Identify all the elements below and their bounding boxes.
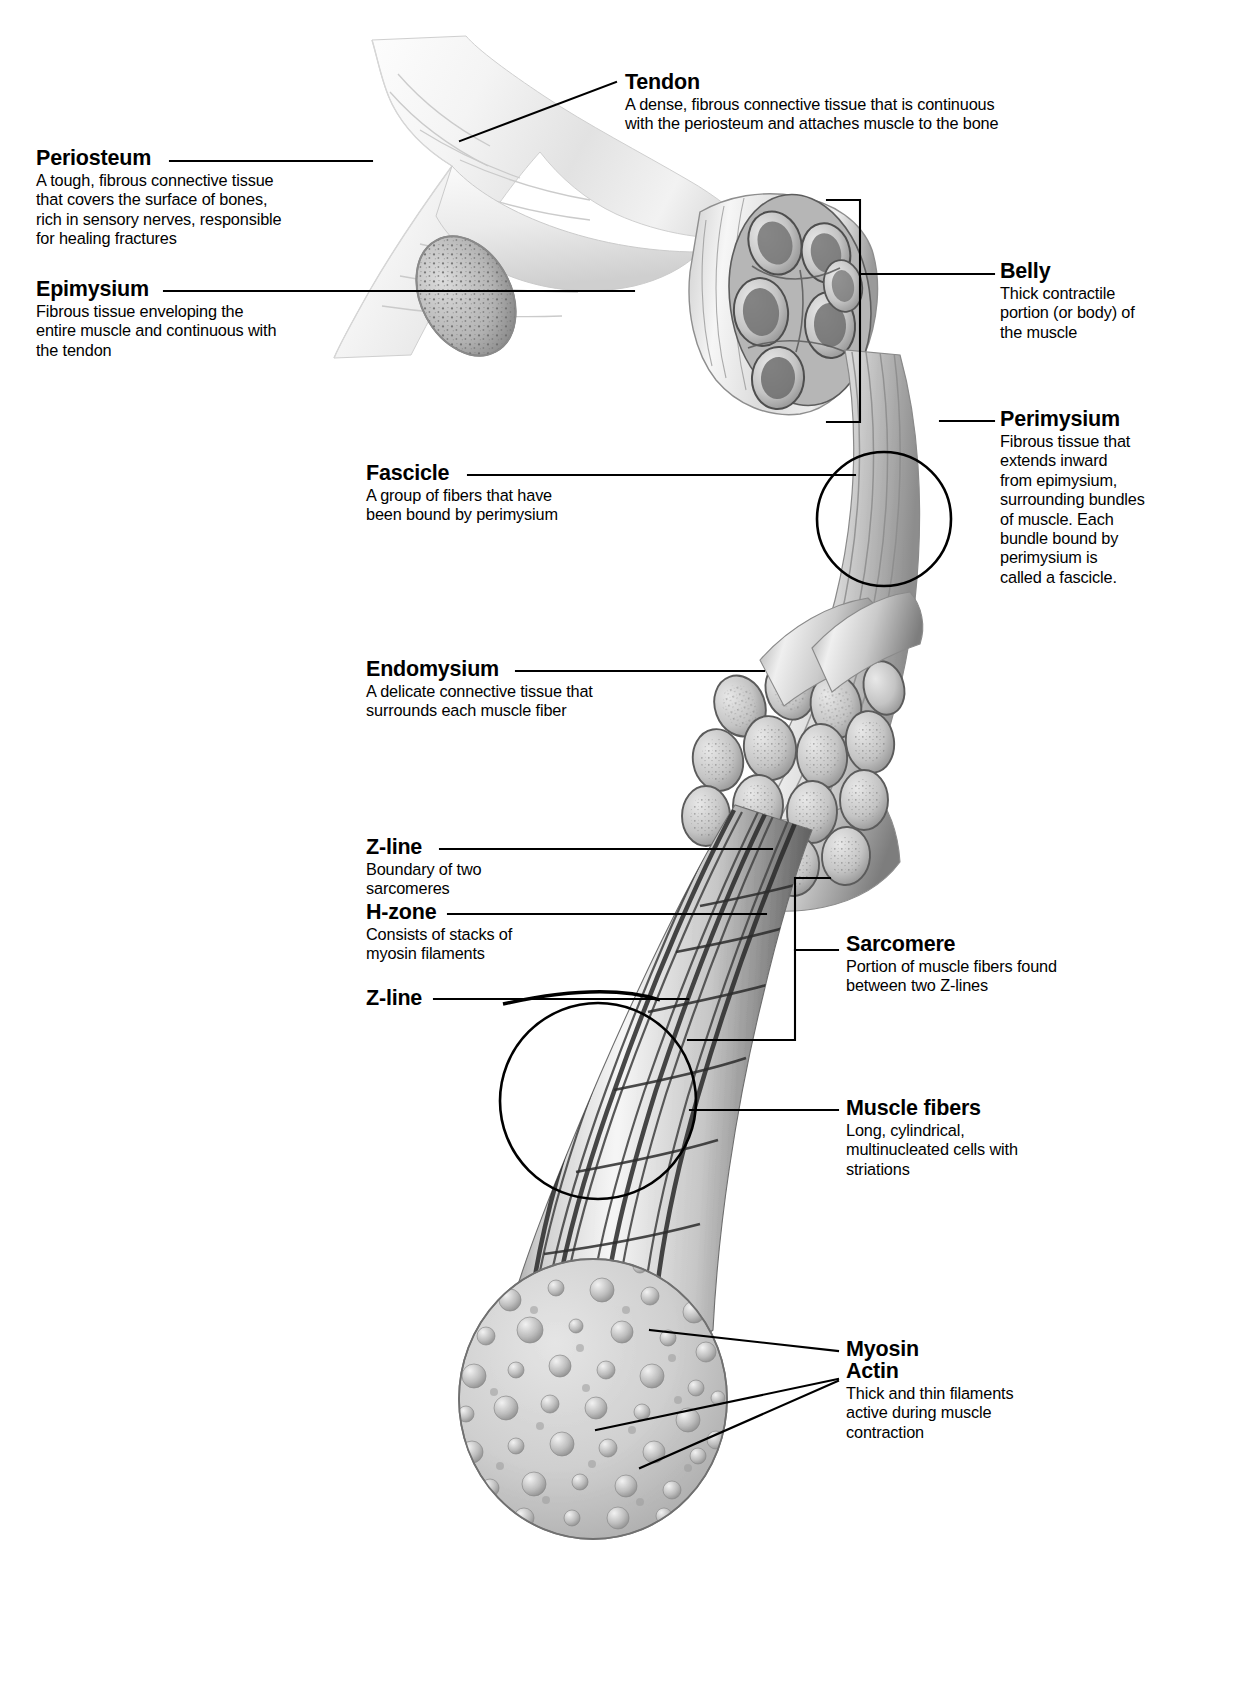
- callout-myosin-term: Myosin: [846, 1337, 1096, 1361]
- myofibril-cut-disc: [453, 1259, 727, 1539]
- callout-periosteum-desc: A tough, fibrous connective tissue that …: [36, 171, 336, 249]
- callout-fascicle: Fascicle A group of fibers that have bee…: [366, 461, 686, 525]
- callout-z-line-upper-term: Z-line: [366, 835, 666, 859]
- callout-perimysium-desc: Fibrous tissue that extends inward from …: [1000, 432, 1250, 587]
- callout-z-line-upper-desc: Boundary of two sarcomeres: [366, 860, 666, 899]
- callout-belly: Belly Thick contractile portion (or body…: [1000, 259, 1250, 342]
- leader-myosin: [650, 1330, 838, 1351]
- callout-perimysium: Perimysium Fibrous tissue that extends i…: [1000, 407, 1250, 587]
- callout-sarcomere-desc: Portion of muscle fibers found between t…: [846, 957, 1116, 996]
- callout-periosteum-term: Periosteum: [36, 146, 336, 170]
- magnifier-circle-muscle-fibers: [500, 1003, 696, 1199]
- callout-sarcomere: Sarcomere Portion of muscle fibers found…: [846, 932, 1116, 996]
- filament-bumps: [453, 1259, 725, 1529]
- callout-tendon-desc: A dense, fibrous connective tissue that …: [625, 95, 1005, 134]
- callout-z-line-upper: Z-line Boundary of two sarcomeres: [366, 835, 666, 899]
- muscle-anatomy-figure: Tendon A dense, fibrous connective tissu…: [0, 0, 1259, 1687]
- callout-fascicle-desc: A group of fibers that have been bound b…: [366, 486, 686, 525]
- callout-h-zone-term: H-zone: [366, 900, 666, 924]
- callout-epimysium-term: Epimysium: [36, 277, 336, 301]
- bracket-sarcomere-upper: [688, 878, 830, 1040]
- callout-z-line-lower-term: Z-line: [366, 986, 586, 1010]
- callout-sarcomere-term: Sarcomere: [846, 932, 1116, 956]
- callout-endomysium-term: Endomysium: [366, 657, 706, 681]
- callout-z-line-lower: Z-line: [366, 986, 586, 1010]
- callout-h-zone: H-zone Consists of stacks of myosin fila…: [366, 900, 666, 964]
- leader-tendon: [460, 82, 616, 141]
- callout-endomysium-desc: A delicate connective tissue that surrou…: [366, 682, 706, 721]
- callout-actin-term: Actin: [846, 1359, 1096, 1383]
- callout-myosin-actin: Myosin Actin Thick and thin filaments ac…: [846, 1337, 1096, 1442]
- callout-endomysium: Endomysium A delicate connective tissue …: [366, 657, 706, 721]
- fascicle-cut-faces: [716, 185, 884, 414]
- tendon-cut-face: [397, 219, 536, 373]
- muscle-belly: [689, 185, 920, 843]
- callout-tendon: Tendon A dense, fibrous connective tissu…: [625, 70, 1005, 134]
- callout-epimysium: Epimysium Fibrous tissue enveloping the …: [36, 277, 336, 360]
- callout-periosteum: Periosteum A tough, fibrous connective t…: [36, 146, 336, 249]
- callout-fascicle-term: Fascicle: [366, 461, 686, 485]
- callout-muscle-fibers-term: Muscle fibers: [846, 1096, 1096, 1120]
- callout-epimysium-desc: Fibrous tissue enveloping the entire mus…: [36, 302, 336, 360]
- callout-h-zone-desc: Consists of stacks of myosin filaments: [366, 925, 666, 964]
- callout-muscle-fibers: Muscle fibers Long, cylindrical, multinu…: [846, 1096, 1096, 1179]
- muscle-fiber-cut-faces: [682, 655, 910, 899]
- callout-belly-desc: Thick contractile portion (or body) of t…: [1000, 284, 1250, 342]
- leader-actin-b: [640, 1381, 838, 1468]
- callout-perimysium-term: Perimysium: [1000, 407, 1250, 431]
- callout-tendon-term: Tendon: [625, 70, 1005, 94]
- fascicle-bundle: [682, 592, 923, 911]
- bracket-belly: [827, 200, 860, 422]
- magnifier-circle-perimysium: [817, 452, 951, 586]
- callout-belly-term: Belly: [1000, 259, 1250, 283]
- leader-actin-a: [596, 1379, 838, 1430]
- callout-muscle-fibers-desc: Long, cylindrical, multinucleated cells …: [846, 1121, 1096, 1179]
- callout-actin-desc: Thick and thin filaments active during m…: [846, 1384, 1096, 1442]
